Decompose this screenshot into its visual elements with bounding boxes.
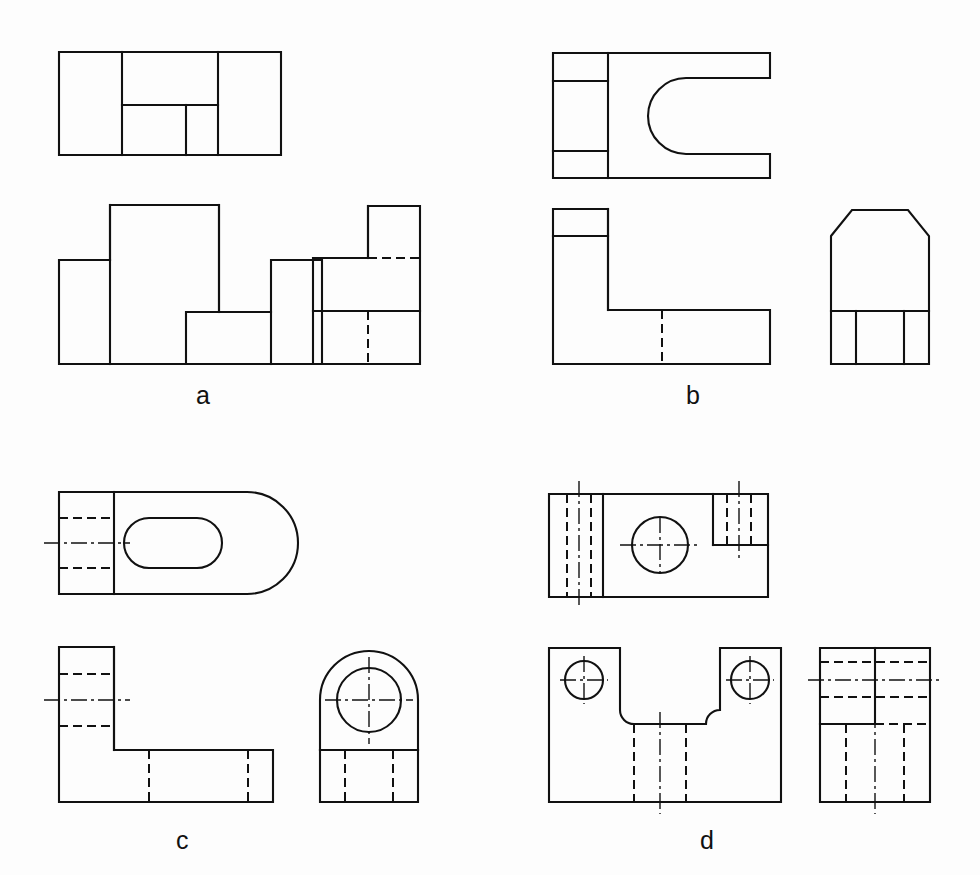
figure-d	[549, 481, 942, 814]
drawing-sheet: a b c d	[0, 0, 980, 875]
figure-d-side-view	[808, 648, 942, 814]
figure-label-b: b	[686, 383, 700, 408]
figure-a-front-view	[59, 205, 322, 364]
figure-a-top-view	[59, 52, 281, 155]
figure-c-top-view	[44, 492, 298, 594]
figure-label-a: a	[196, 383, 210, 408]
figure-d-front-view	[549, 648, 781, 814]
technical-drawing-canvas	[0, 0, 980, 875]
figure-d-top-view	[549, 481, 768, 609]
figure-label-d: d	[700, 828, 714, 853]
figure-b-side-view	[831, 210, 929, 364]
figure-b-top-view	[553, 53, 770, 178]
figure-c	[44, 492, 418, 802]
figure-a	[59, 52, 420, 364]
figure-b	[553, 53, 929, 364]
figure-c-front-view	[44, 647, 273, 802]
figure-a-side-view	[313, 206, 420, 364]
figure-b-front-view	[553, 209, 770, 364]
figure-c-side-view	[320, 651, 418, 802]
figure-label-c: c	[176, 828, 189, 853]
